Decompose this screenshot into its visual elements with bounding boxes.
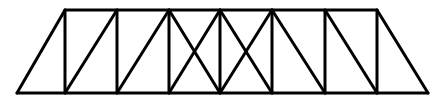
diagonal-bay-6 xyxy=(272,10,325,93)
right-end-post xyxy=(377,10,428,93)
truss-members xyxy=(17,10,428,93)
diagonal-bay-2 xyxy=(65,10,117,93)
left-end-post xyxy=(17,10,65,93)
diagonal-bay-7 xyxy=(325,10,377,93)
truss-diagram xyxy=(0,0,438,102)
diagonal-bay-3 xyxy=(117,10,169,93)
